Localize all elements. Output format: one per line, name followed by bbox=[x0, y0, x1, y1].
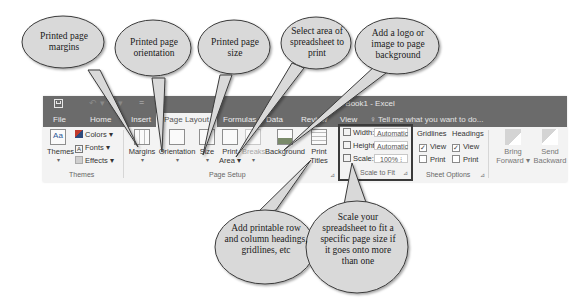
callout-text-print-area: Select area of spreadsheet to print bbox=[287, 26, 347, 59]
callout-text-size: Printed page size bbox=[204, 37, 266, 59]
callout-tail-print-titles bbox=[255, 160, 311, 215]
callout-tail-size bbox=[203, 75, 232, 155]
callout-text-print-titles: Add printable row and column headings, g… bbox=[224, 223, 308, 256]
callout-text-orientation: Printed page orientation bbox=[120, 37, 188, 59]
callout-text-margins: Printed page margins bbox=[28, 31, 100, 53]
callout-tail-margins bbox=[88, 70, 138, 147]
callout-text-background: Add a logo or image to page background bbox=[362, 28, 434, 61]
callout-tail-orientation bbox=[152, 78, 165, 152]
callout-tail-background bbox=[284, 66, 390, 150]
callout-text-scale: Scale your spreadsheet to fit a specific… bbox=[317, 212, 399, 267]
